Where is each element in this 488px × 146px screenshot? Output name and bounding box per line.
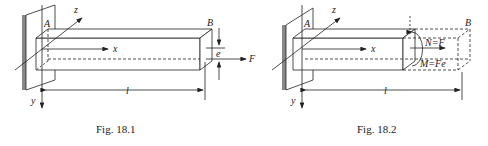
label-a: A (43, 18, 51, 29)
caption-fig-18-1: Fig. 18.1 (96, 123, 135, 135)
label-b: B (207, 17, 213, 28)
caption-fig-18-2: Fig. 18.2 (357, 123, 396, 135)
label-z: z (73, 4, 78, 15)
label-x: x (112, 43, 118, 54)
label-b-2: B (465, 17, 471, 28)
label-l-2: l (384, 85, 387, 96)
beam-front (36, 38, 200, 70)
wall-hatch (22, 15, 26, 90)
label-y: y (30, 95, 36, 106)
label-a-2: A (303, 18, 311, 29)
diagram-canvas: A B z x y l e F (0, 0, 488, 146)
label-f: F (248, 53, 256, 64)
label-x-2: x (370, 43, 376, 54)
label-m: M=Fe (419, 58, 446, 69)
label-y-2: y (290, 95, 296, 106)
figure-18-2 (272, 5, 470, 108)
label-e: e (216, 48, 221, 59)
label-n: N=F (424, 37, 445, 48)
label-l: l (126, 85, 129, 96)
label-z-2: z (331, 4, 336, 15)
